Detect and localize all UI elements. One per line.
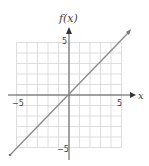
x-max-tick-label: 5	[117, 99, 122, 108]
x-axis-arrow-icon	[130, 92, 136, 98]
y-axis-label: f(x)	[58, 12, 78, 25]
function-line	[10, 31, 130, 155]
x-axis-label: x	[138, 90, 144, 101]
x-min-tick-label: −5	[12, 99, 24, 108]
line-endpoint-start	[9, 154, 12, 157]
y-min-tick-label: −5	[57, 145, 69, 154]
y-max-tick-label: 5	[62, 37, 67, 46]
function-graph: f(x) x −5 5 5 −5	[0, 0, 149, 166]
y-axis-arrow-icon	[66, 27, 72, 34]
